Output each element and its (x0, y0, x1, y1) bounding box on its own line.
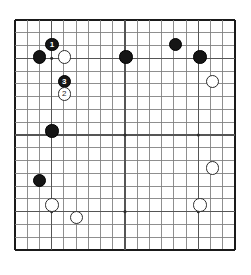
stone-black-move-1-c3r2[interactable]: 1 (45, 38, 58, 51)
stone-white-c15r15[interactable] (193, 198, 206, 211)
stone-black-c13r2[interactable] (169, 38, 182, 51)
stone-white-c3r15[interactable] (45, 198, 58, 211)
stone-layer: 132 (14, 19, 236, 251)
go-diagram-canvas: 132 (0, 0, 251, 275)
stone-white-move-2-c4r6[interactable]: 2 (58, 87, 71, 100)
stone-white-c16r12[interactable] (206, 161, 219, 174)
move-number-label: 1 (50, 40, 54, 48)
stone-white-c5r16[interactable] (70, 211, 83, 224)
stone-white-c4r3[interactable] (58, 50, 71, 63)
stone-black-c15r3[interactable] (193, 50, 206, 63)
stone-black-c2r3[interactable] (33, 50, 46, 63)
stone-black-c3r9[interactable] (45, 124, 58, 137)
stone-white-c16r5[interactable] (206, 75, 219, 88)
stone-black-c9r3[interactable] (119, 50, 132, 63)
move-number-label: 2 (62, 89, 66, 97)
stone-black-c2r13[interactable] (33, 174, 46, 187)
move-number-label: 3 (62, 77, 66, 85)
go-board[interactable]: 132 (14, 19, 236, 251)
